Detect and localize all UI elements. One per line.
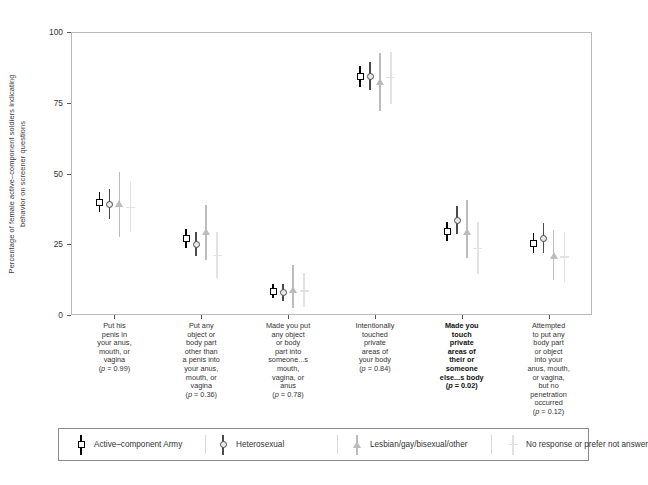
legend-separator bbox=[205, 435, 206, 454]
category-p-value: (p = 0.36) bbox=[165, 391, 237, 400]
x-axis-tick-mark bbox=[114, 315, 115, 319]
data-point-marker-circle bbox=[367, 73, 374, 80]
legend-separator bbox=[337, 435, 338, 454]
plot-panel bbox=[71, 32, 592, 315]
y-axis-tick-label: 25 bbox=[35, 239, 63, 249]
data-point-marker-plus bbox=[213, 255, 222, 256]
x-axis-category-label-made-you-put-object: Made you putany objector bodypart intoso… bbox=[252, 322, 324, 399]
legend: Active–component ArmyHeterosexualLesbian… bbox=[58, 428, 589, 461]
legend-label: Active–component Army bbox=[89, 440, 182, 449]
category-p-value: (p = 0.99) bbox=[78, 365, 150, 374]
legend-key-swatch bbox=[349, 434, 365, 456]
data-point-marker-triangle bbox=[376, 78, 384, 85]
x-axis-category-label-made-you-touch: Made youtouchprivateareas oftheir orsome… bbox=[426, 322, 498, 391]
data-point-marker-square bbox=[357, 73, 364, 80]
y-axis-title-wrapper: Percentage of female active–component so… bbox=[2, 32, 32, 315]
y-axis-tick-label: 75 bbox=[35, 98, 63, 108]
data-point-marker-triangle bbox=[353, 441, 361, 448]
y-axis-title-line-2: behavior on screener questions bbox=[17, 74, 28, 273]
y-axis-tick-label: 100 bbox=[35, 27, 63, 37]
x-axis-tick-mark bbox=[549, 315, 550, 319]
data-point-marker-triangle bbox=[115, 200, 123, 207]
data-point-marker-circle bbox=[280, 289, 287, 296]
data-point-marker-plus bbox=[126, 207, 135, 208]
data-point-marker-square bbox=[530, 240, 537, 247]
data-point-marker-plus bbox=[509, 444, 518, 445]
legend-label: No response or prefer not answer bbox=[521, 440, 648, 449]
data-point-marker-plus bbox=[300, 290, 309, 291]
category-p-value: (p = 0.02) bbox=[426, 382, 498, 391]
y-axis-tick-label: 50 bbox=[35, 169, 63, 179]
data-point-marker-triangle bbox=[202, 228, 210, 235]
data-point-marker-circle bbox=[220, 441, 227, 448]
data-point-marker-plus bbox=[560, 256, 569, 257]
data-point-marker-square bbox=[270, 288, 277, 295]
data-point-marker-square bbox=[183, 235, 190, 242]
legend-key-swatch bbox=[505, 434, 521, 456]
data-point-marker-triangle bbox=[463, 228, 471, 235]
y-axis-title-line-1: Percentage of female active–component so… bbox=[7, 74, 16, 273]
legend-key-swatch bbox=[215, 434, 231, 456]
confidence-interval-bar bbox=[390, 52, 392, 104]
y-axis-tick-label: 0 bbox=[35, 310, 63, 320]
x-axis-category-label-put-his-penis: Put hispenis inyour anus,mouth, orvagina… bbox=[78, 322, 150, 374]
x-axis-category-label-put-any-object-other-than-penis: Put anyobject orbody partother thana pen… bbox=[165, 322, 237, 399]
legend-entry-3[interactable]: No response or prefer not answer bbox=[505, 429, 648, 460]
legend-key-swatch bbox=[73, 434, 89, 456]
legend-label: Lesbian/gay/bisexual/other bbox=[365, 440, 467, 449]
legend-entry-2[interactable]: Lesbian/gay/bisexual/other bbox=[349, 429, 467, 460]
legend-entry-0[interactable]: Active–component Army bbox=[73, 429, 182, 460]
data-point-marker-square bbox=[78, 441, 85, 448]
x-axis-category-label-attempted-to-put: Attemptedto put anybody partor objectint… bbox=[513, 322, 585, 417]
data-point-marker-plus bbox=[386, 77, 395, 78]
legend-label: Heterosexual bbox=[231, 440, 284, 449]
data-point-marker-triangle bbox=[289, 286, 297, 293]
data-point-marker-square bbox=[444, 228, 451, 235]
x-axis-tick-mark bbox=[288, 315, 289, 319]
legend-separator bbox=[491, 435, 492, 454]
data-point-marker-plus bbox=[473, 248, 482, 249]
y-axis-title: Percentage of female active–component so… bbox=[6, 74, 28, 273]
y-axis-tick-mark bbox=[67, 315, 71, 316]
x-axis-tick-mark bbox=[201, 315, 202, 319]
data-point-marker-square bbox=[96, 199, 103, 206]
category-p-value: (p = 0.84) bbox=[339, 365, 411, 374]
legend-entry-1[interactable]: Heterosexual bbox=[215, 429, 284, 460]
data-point-marker-circle bbox=[454, 217, 461, 224]
category-p-value: (p = 0.12) bbox=[513, 408, 585, 417]
category-p-value: (p = 0.78) bbox=[252, 391, 324, 400]
x-axis-tick-mark bbox=[375, 315, 376, 319]
x-axis-tick-mark bbox=[462, 315, 463, 319]
x-axis-category-label-intentionally-touched: Intentionallytouchedprivateareas ofyour … bbox=[339, 322, 411, 374]
data-point-marker-triangle bbox=[550, 252, 558, 259]
